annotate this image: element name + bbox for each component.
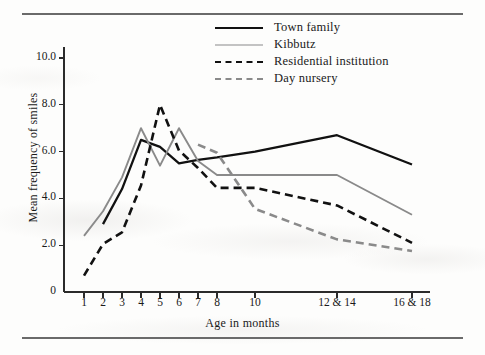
legend-swatch-solid-black-icon xyxy=(213,22,265,34)
legend-label: Kibbutz xyxy=(265,37,316,52)
legend-label: Day nursery xyxy=(265,71,338,86)
legend-item-day-nursery[interactable]: Day nursery xyxy=(213,70,443,87)
legend-item-kibbutz[interactable]: Kibbutz xyxy=(213,36,443,53)
figure-page: Mean frequency of smiles Age in months 0… xyxy=(0,0,485,355)
legend-swatch-dashed-gray-icon xyxy=(213,73,265,85)
legend-label: Town family xyxy=(265,20,340,35)
legend-swatch-solid-gray-icon xyxy=(213,39,265,51)
legend-swatch-dashed-black-icon xyxy=(213,56,265,68)
legend-item-town-family[interactable]: Town family xyxy=(213,19,443,36)
chart-legend: Town family Kibbutz Residential institut… xyxy=(213,19,443,87)
legend-label: Residential institution xyxy=(265,54,389,69)
legend-item-residential-institution[interactable]: Residential institution xyxy=(213,53,443,70)
series-line-residential-institution xyxy=(84,105,412,276)
